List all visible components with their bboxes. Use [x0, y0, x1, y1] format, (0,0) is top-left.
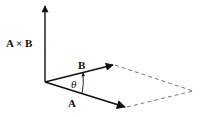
vector-a-label: A: [68, 97, 76, 109]
angle-arc: [82, 73, 83, 94]
vector-a: [45, 82, 125, 107]
parallelogram-edge-top: [115, 65, 193, 91]
cross-product-label: A × B: [6, 37, 33, 49]
angle-theta-label: θ: [71, 78, 77, 90]
vector-b-label: B: [78, 59, 86, 71]
parallelogram-edge-bottom: [127, 91, 193, 107]
cross-product-diagram: A × B B θ A: [0, 0, 206, 117]
